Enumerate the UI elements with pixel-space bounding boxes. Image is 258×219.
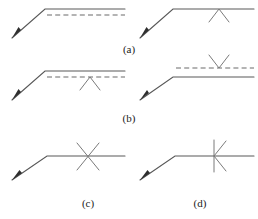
diagram-c: [12, 143, 125, 180]
arrow-head-icon: [12, 27, 21, 38]
diagram-a-right: [140, 9, 254, 38]
panel-d: (d): [140, 140, 254, 210]
arrow-polyline: [12, 71, 125, 100]
panel-label-c: (c): [82, 197, 95, 210]
diagram-d: [140, 140, 254, 180]
diagram-a-left: [12, 9, 125, 38]
arrow-polyline: [140, 156, 254, 180]
panel-a: (a): [12, 9, 254, 56]
figure-canvas: (a) (b): [0, 0, 258, 219]
panel-label-d: (d): [194, 197, 207, 210]
arrow-head-icon: [140, 27, 149, 38]
panel-b: (b): [12, 55, 254, 125]
chevron-down-icon: [209, 55, 229, 68]
panel-label-b: (b): [123, 112, 136, 125]
diagram-b-right: [140, 55, 254, 100]
arrow-head-icon: [12, 170, 22, 180]
panel-label-a: (a): [123, 43, 136, 56]
arrow-head-icon: [12, 89, 21, 100]
k-upper-stroke-icon: [214, 141, 226, 156]
k-lower-stroke-icon: [214, 156, 226, 171]
arrow-head-icon: [140, 170, 150, 180]
panel-c: (c): [12, 143, 125, 210]
chevron-up-icon: [80, 77, 100, 90]
arrow-polyline: [12, 156, 125, 180]
diagram-b-left: [12, 71, 125, 100]
arrow-polyline: [140, 77, 254, 100]
arrow-polyline: [140, 9, 254, 38]
figure-container: (a) (b): [0, 0, 258, 219]
arrow-polyline: [12, 9, 125, 38]
chevron-up-icon: [209, 9, 229, 22]
